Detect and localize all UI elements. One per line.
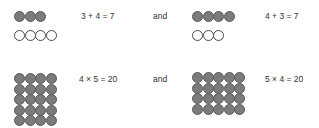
- filled-circle-icon: [213, 83, 224, 94]
- empty-circle-icon: [213, 30, 224, 41]
- row2-connector: and: [153, 74, 167, 84]
- filled-circle-icon: [14, 115, 25, 126]
- row1-left-filled-dots: [14, 11, 46, 22]
- filled-circle-icon: [35, 115, 46, 126]
- filled-circle-icon: [224, 93, 235, 104]
- row1-right-equation: 4 + 3 = 7: [265, 11, 299, 21]
- filled-circle-icon: [192, 11, 203, 22]
- filled-circle-icon: [234, 104, 245, 115]
- filled-circle-icon: [234, 83, 245, 94]
- filled-circle-icon: [203, 83, 214, 94]
- empty-circle-icon: [14, 30, 25, 41]
- filled-circle-icon: [213, 104, 224, 115]
- filled-circle-icon: [46, 94, 57, 105]
- filled-circle-icon: [35, 94, 46, 105]
- filled-circle-icon: [234, 72, 245, 83]
- filled-circle-icon: [192, 83, 203, 94]
- filled-circle-icon: [46, 105, 57, 116]
- filled-circle-icon: [25, 105, 36, 116]
- row1-right-empty-dots: [192, 30, 224, 41]
- filled-circle-icon: [46, 73, 57, 84]
- filled-circle-icon: [192, 104, 203, 115]
- row1-right-filled-dots: [192, 11, 234, 22]
- empty-circle-icon: [203, 30, 214, 41]
- filled-circle-icon: [192, 72, 203, 83]
- filled-circle-icon: [35, 11, 46, 22]
- empty-circle-icon: [46, 30, 57, 41]
- filled-circle-icon: [35, 105, 46, 116]
- empty-circle-icon: [25, 30, 36, 41]
- filled-circle-icon: [224, 11, 235, 22]
- empty-circle-icon: [192, 30, 203, 41]
- row2-left-dot-grid: [14, 73, 56, 126]
- filled-circle-icon: [203, 104, 214, 115]
- filled-circle-icon: [14, 73, 25, 84]
- filled-circle-icon: [35, 73, 46, 84]
- filled-circle-icon: [14, 84, 25, 95]
- filled-circle-icon: [14, 105, 25, 116]
- filled-circle-icon: [234, 93, 245, 104]
- filled-circle-icon: [224, 72, 235, 83]
- row1-connector: and: [153, 11, 167, 21]
- filled-circle-icon: [213, 72, 224, 83]
- filled-circle-icon: [46, 115, 57, 126]
- row2-left-equation: 4 × 5 = 20: [79, 74, 117, 84]
- filled-circle-icon: [213, 93, 224, 104]
- filled-circle-icon: [25, 11, 36, 22]
- filled-circle-icon: [35, 84, 46, 95]
- filled-circle-icon: [203, 72, 214, 83]
- row2-right-equation: 5 × 4 = 20: [265, 74, 303, 84]
- row1-left-equation: 3 + 4 = 7: [81, 11, 115, 21]
- filled-circle-icon: [224, 83, 235, 94]
- row2-right-dot-grid: [192, 72, 245, 114]
- filled-circle-icon: [25, 73, 36, 84]
- filled-circle-icon: [224, 104, 235, 115]
- filled-circle-icon: [25, 94, 36, 105]
- filled-circle-icon: [192, 93, 203, 104]
- filled-circle-icon: [203, 11, 214, 22]
- empty-circle-icon: [35, 30, 46, 41]
- filled-circle-icon: [213, 11, 224, 22]
- filled-circle-icon: [25, 115, 36, 126]
- filled-circle-icon: [25, 84, 36, 95]
- filled-circle-icon: [14, 11, 25, 22]
- filled-circle-icon: [14, 94, 25, 105]
- filled-circle-icon: [46, 84, 57, 95]
- filled-circle-icon: [203, 93, 214, 104]
- row1-left-empty-dots: [14, 30, 56, 41]
